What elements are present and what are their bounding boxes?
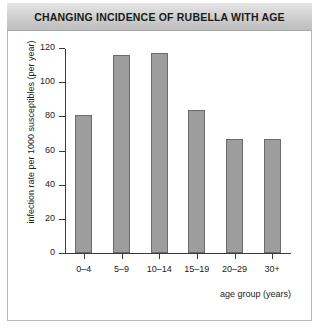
y-axis-spine <box>65 49 66 254</box>
chart-title-banner: CHANGING INCIDENCE OF RUBELLA WITH AGE <box>7 3 312 31</box>
y-axis-tick: 20 <box>59 219 65 220</box>
x-axis-tick <box>272 254 273 259</box>
y-axis-tick: 40 <box>59 185 65 186</box>
plot-area: infection rate per 1000 susceptibles (pe… <box>7 31 312 321</box>
y-axis-tick-label: 40 <box>45 179 55 189</box>
bar <box>151 53 168 253</box>
x-axis-tick-label: 5–9 <box>114 264 129 274</box>
x-axis-spine <box>65 253 291 254</box>
y-axis-tick-label: 120 <box>40 42 55 52</box>
y-axis-tick-label: 20 <box>45 213 55 223</box>
y-axis-tick-label: 80 <box>45 110 55 120</box>
y-axis-tick: 100 <box>59 82 65 83</box>
bar <box>264 139 281 253</box>
x-axis-tick-label: 20–29 <box>222 264 247 274</box>
y-axis-tick: 60 <box>59 151 65 152</box>
y-axis-label: infection rate per 1000 susceptibles (pe… <box>26 32 36 232</box>
bar <box>113 55 130 253</box>
y-axis-tick-label: 0 <box>50 247 55 257</box>
axes: 0204060801001200–45–910–1415–1920–2930+ <box>65 49 291 254</box>
y-axis-tick: 120 <box>59 48 65 49</box>
x-axis-tick-label: 10–14 <box>147 264 172 274</box>
y-axis-tick: 0 <box>59 253 65 254</box>
x-axis-tick-label: 15–19 <box>184 264 209 274</box>
bar <box>75 115 92 253</box>
x-axis-tick <box>159 254 160 259</box>
y-axis-tick-label: 60 <box>45 145 55 155</box>
x-axis-tick-label: 0–4 <box>76 264 91 274</box>
chart-figure: CHANGING INCIDENCE OF RUBELLA WITH AGE i… <box>0 0 319 335</box>
x-axis-tick-label: 30+ <box>265 264 280 274</box>
y-axis-tick-label: 100 <box>40 76 55 86</box>
y-axis-tick: 80 <box>59 116 65 117</box>
x-axis-tick <box>235 254 236 259</box>
page-title: CHANGING INCIDENCE OF RUBELLA WITH AGE <box>34 11 285 23</box>
x-axis-tick <box>84 254 85 259</box>
x-axis-tick <box>197 254 198 259</box>
bar <box>188 110 205 254</box>
x-axis-tick <box>122 254 123 259</box>
bar <box>226 139 243 253</box>
x-axis-label: age group (years) <box>65 289 291 299</box>
